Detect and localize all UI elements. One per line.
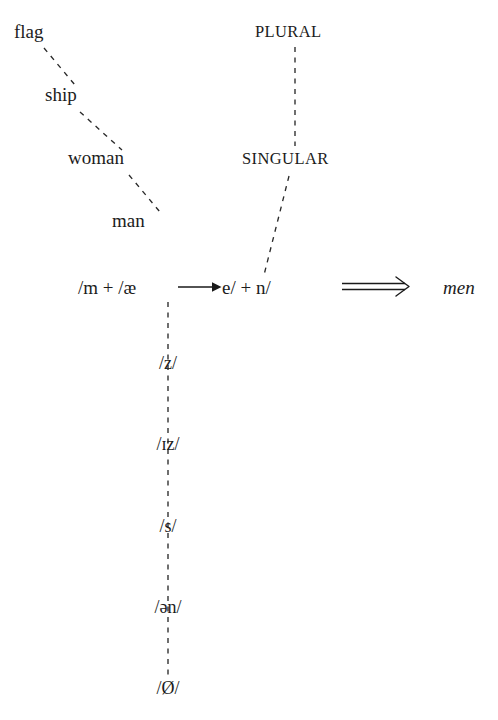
formula-output-word: men (443, 278, 475, 297)
noun-label-man: man (112, 211, 145, 230)
connector-woman-man (129, 175, 160, 212)
connector-ship-woman (80, 112, 122, 150)
allomorph-label-s: /s/ (159, 517, 176, 535)
double-right-arrow-icon (342, 277, 409, 296)
allomorph-label-en: /ən/ (155, 598, 182, 616)
allomorph-label-null: /Ø/ (156, 679, 179, 697)
connector-flag-ship (44, 48, 75, 85)
morphology-diagram: flag ship woman man PLURAL SINGULAR /m +… (0, 0, 498, 720)
allomorph-label-z: /z/ (159, 354, 177, 372)
connector-singular-formula (264, 176, 289, 275)
connector-layer (0, 0, 498, 720)
formula-left-segment: /m + /æ (78, 278, 136, 297)
feature-label-singular: SINGULAR (242, 151, 329, 168)
feature-label-plural: PLURAL (255, 24, 322, 41)
noun-label-woman: woman (68, 148, 124, 167)
noun-label-ship: ship (45, 85, 77, 104)
formula-right-segment: e/ + n/ (222, 278, 271, 297)
single-right-arrow-icon (178, 282, 222, 292)
allomorph-label-iz: /ɪz/ (157, 435, 180, 453)
noun-label-flag: flag (14, 22, 44, 41)
